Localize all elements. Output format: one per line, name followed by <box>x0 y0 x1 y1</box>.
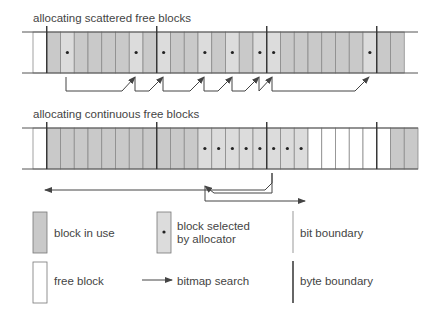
block-in-use <box>322 32 336 73</box>
legend-in-use-swatch <box>33 212 47 253</box>
block-in-use <box>377 32 391 73</box>
block-free <box>33 128 47 169</box>
selected-dot-icon <box>300 147 303 150</box>
block-in-use <box>184 128 198 169</box>
block-free <box>308 128 322 169</box>
block-in-use <box>336 32 350 73</box>
selected-dot-icon <box>245 147 248 150</box>
selected-dot-icon <box>231 51 234 54</box>
block-in-use <box>88 32 102 73</box>
legend-label-block-in-use: block in use <box>54 226 115 240</box>
block-in-use <box>212 32 226 73</box>
block-in-use <box>349 32 363 73</box>
selected-dot-icon <box>135 51 138 54</box>
selected-dot-icon <box>286 147 289 150</box>
selected-dot-icon <box>368 51 371 54</box>
block-in-use <box>157 128 171 169</box>
diagram2-search-arrows <box>45 173 305 201</box>
block-free <box>33 32 47 73</box>
block-in-use <box>129 128 143 169</box>
block-in-use <box>171 128 185 169</box>
legend-label-bitmap-search: bitmap search <box>177 274 249 288</box>
selected-dot-icon <box>203 51 206 54</box>
selected-dot-icon <box>272 51 275 54</box>
legend-label-bit-boundary: bit boundary <box>300 226 363 240</box>
block-in-use <box>102 32 116 73</box>
block-free <box>349 128 363 169</box>
legend-selected-dot-icon <box>162 230 165 233</box>
block-in-use <box>281 32 295 73</box>
legend-label-free-block: free block <box>54 274 104 288</box>
selected-dot-icon <box>272 147 275 150</box>
legend <box>33 211 293 303</box>
block-in-use <box>184 32 198 73</box>
diagram2-block-row <box>22 122 418 169</box>
block-free <box>336 128 350 169</box>
block-free <box>322 128 336 169</box>
block-in-use <box>391 32 405 73</box>
legend-free-swatch <box>33 262 47 303</box>
block-in-use <box>74 32 88 73</box>
block-in-use <box>143 32 157 73</box>
legend-label-block-selected-2: by allocator <box>177 232 236 246</box>
block-in-use <box>74 128 88 169</box>
diagram1-search-arrows <box>66 77 369 91</box>
selected-dot-icon <box>162 51 165 54</box>
block-in-use <box>102 128 116 169</box>
block-in-use <box>116 32 130 73</box>
block-in-use <box>391 128 405 169</box>
selected-dot-icon <box>258 51 261 54</box>
block-in-use <box>143 128 157 169</box>
block-in-use <box>47 32 61 73</box>
block-in-use <box>404 128 418 169</box>
selected-dot-icon <box>217 147 220 150</box>
block-in-use <box>308 32 322 73</box>
block-in-use <box>47 128 61 169</box>
block-free <box>363 128 377 169</box>
block-in-use <box>116 128 130 169</box>
block-free <box>377 128 391 169</box>
selected-dot-icon <box>203 147 206 150</box>
block-in-use <box>294 32 308 73</box>
diagram1-block-row <box>22 26 418 73</box>
legend-label-block-selected-1: block selected <box>177 219 250 233</box>
block-in-use <box>171 32 185 73</box>
selected-dot-icon <box>258 147 261 150</box>
legend-label-byte-boundary: byte boundary <box>300 274 373 288</box>
block-in-use <box>239 32 253 73</box>
selected-dot-icon <box>231 147 234 150</box>
block-in-use <box>61 128 75 169</box>
selected-dot-icon <box>66 51 69 54</box>
block-in-use <box>88 128 102 169</box>
